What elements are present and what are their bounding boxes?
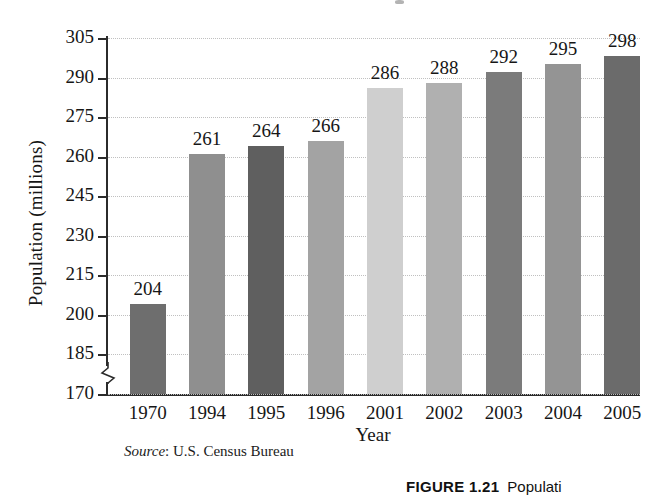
plot-area: 170185200215230245260275290305 204261264… <box>106 36 640 396</box>
source-text: U.S. Census Bureau <box>173 443 294 459</box>
axis-break-icon <box>100 362 116 384</box>
source-label: Source <box>124 443 165 459</box>
y-axis-title: Population (millions) <box>25 93 47 353</box>
bar <box>189 154 225 394</box>
y-axis-tick-label: 170 <box>66 382 95 404</box>
y-axis-tick-label: 260 <box>66 145 95 167</box>
x-axis-tick-label: 2003 <box>485 402 523 424</box>
y-axis-tick-label: 185 <box>66 343 95 365</box>
x-axis-tick-label: 1994 <box>188 402 226 424</box>
bar <box>367 88 403 394</box>
y-axis-tick-label: 290 <box>66 66 95 88</box>
x-axis-tick-label: 1970 <box>129 402 167 424</box>
bar-value-label: 286 <box>371 62 400 84</box>
figure-caption: FIGURE 1.21Populati <box>406 478 562 495</box>
gridline <box>108 394 640 396</box>
bar-value-label: 264 <box>252 120 281 142</box>
tick-mark <box>98 236 107 238</box>
bar <box>486 72 522 394</box>
bar-value-label: 295 <box>549 38 578 60</box>
tick-mark <box>98 157 107 159</box>
x-axis-tick-label: 2005 <box>603 402 641 424</box>
tick-mark <box>98 78 107 80</box>
bar-value-label: 261 <box>193 128 222 150</box>
y-axis-tick-label: 215 <box>66 264 95 286</box>
tick-mark <box>98 196 107 198</box>
bar-value-label: 292 <box>489 46 518 68</box>
bar-value-label: 266 <box>311 115 340 137</box>
bar-value-label: 204 <box>133 278 162 300</box>
y-axis-tick-label: 275 <box>66 105 95 127</box>
bar <box>604 56 640 394</box>
bar-value-label: 298 <box>608 30 637 52</box>
figure-number: FIGURE 1.21 <box>406 478 499 495</box>
bar <box>248 146 284 394</box>
tick-mark <box>98 315 107 317</box>
tick-mark <box>98 394 107 396</box>
scan-artifact <box>395 0 404 4</box>
bar <box>308 141 344 394</box>
y-axis-tick-label: 245 <box>66 185 95 207</box>
x-axis-tick-label: 2002 <box>425 402 463 424</box>
x-axis-tick-label: 2001 <box>366 402 404 424</box>
tick-mark <box>98 38 107 40</box>
tick-mark <box>98 117 107 119</box>
x-axis-tick-label: 1996 <box>307 402 345 424</box>
bar <box>130 304 166 394</box>
bar-value-label: 288 <box>430 57 459 79</box>
source-separator: : <box>165 443 169 459</box>
tick-mark <box>98 275 107 277</box>
source-note: Source: U.S. Census Bureau <box>124 443 294 460</box>
bar <box>545 64 581 394</box>
figure-caption-text: Populati <box>507 478 561 495</box>
tick-mark <box>98 354 107 356</box>
y-axis-tick-label: 230 <box>66 224 95 246</box>
y-axis-tick-label: 200 <box>66 303 95 325</box>
y-axis-tick-label: 305 <box>66 26 95 48</box>
bar <box>426 83 462 394</box>
x-axis-tick-label: 1995 <box>247 402 285 424</box>
x-axis-tick-label: 2004 <box>544 402 582 424</box>
